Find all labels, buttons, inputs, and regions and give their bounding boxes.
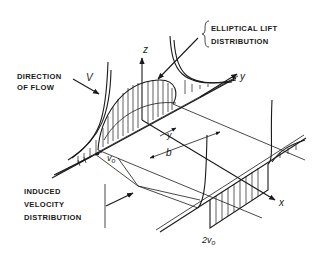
- left-downwash-segment: [54, 156, 92, 175]
- lift-distribution-diagram: y z: [0, 0, 335, 255]
- two-v0-label: 2vo: [201, 235, 216, 246]
- z-axis-label: z: [142, 44, 148, 55]
- svg-text:DIRECTION: DIRECTION: [17, 72, 61, 81]
- svg-text:INDUCED: INDUCED: [24, 187, 61, 196]
- induced-velocity-annotation: INDUCED VELOCITY DISTRIBUTION: [24, 184, 133, 228]
- span-dimension: b y: [150, 128, 220, 158]
- x-axis-label: x: [278, 197, 285, 208]
- svg-text:DISTRIBUTION: DISTRIBUTION: [24, 213, 82, 222]
- svg-text:OF FLOW: OF FLOW: [17, 83, 55, 92]
- elliptical-lift-annotation: ELLIPTICAL LIFT DISTRIBUTION: [158, 21, 277, 79]
- svg-text:VELOCITY: VELOCITY: [24, 200, 64, 209]
- y-coord-label: y: [166, 130, 172, 140]
- svg-text:ELLIPTICAL LIFT: ELLIPTICAL LIFT: [211, 24, 277, 33]
- svg-text:DISTRIBUTION: DISTRIBUTION: [211, 37, 269, 46]
- y-axis-label: y: [239, 71, 246, 82]
- freestream-label: V: [86, 72, 94, 83]
- direction-of-flow-annotation: DIRECTION OF FLOW V: [17, 72, 99, 94]
- span-label: b: [166, 147, 172, 158]
- v0-label: vo: [107, 153, 116, 164]
